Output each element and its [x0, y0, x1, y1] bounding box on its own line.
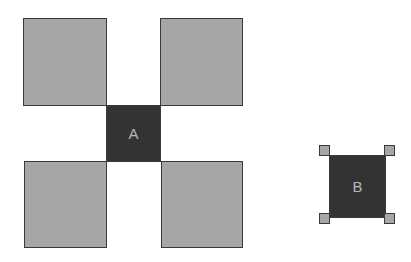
handle-top-right: [384, 145, 395, 156]
center-box-a: A: [106, 105, 161, 162]
corner-box-bottom-left: [24, 161, 107, 248]
center-box-b: B: [329, 155, 386, 218]
handle-bottom-left: [319, 213, 330, 224]
corner-box-bottom-right: [161, 161, 243, 248]
handle-bottom-right: [384, 213, 395, 224]
corner-box-top-right: [160, 18, 243, 106]
label-b: B: [352, 178, 362, 195]
handle-top-left: [319, 145, 330, 156]
corner-box-top-left: [23, 18, 107, 106]
label-a: A: [128, 125, 138, 142]
